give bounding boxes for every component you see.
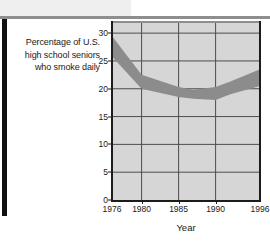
- page-canvas: Percentage of U.S. high school seniors w…: [0, 0, 270, 242]
- x-tick-label: 1996: [251, 204, 270, 214]
- x-tick-mark: [179, 200, 180, 204]
- x-tick-label: 1990: [206, 204, 225, 214]
- y-tick-mark: [108, 116, 112, 117]
- y-tick-label: 25: [99, 56, 108, 66]
- y-tick-mark: [108, 144, 112, 145]
- plot-svg: [112, 22, 260, 200]
- x-tick-label: 1985: [169, 204, 188, 214]
- y-axis-line: [111, 21, 113, 201]
- caption-line-2: high school seniors: [8, 49, 100, 62]
- y-tick-mark: [108, 88, 112, 89]
- axis-right: [259, 21, 261, 201]
- x-tick-mark: [142, 200, 143, 204]
- y-tick-mark: [108, 60, 112, 61]
- chart-caption: Percentage of U.S. high school seniors w…: [8, 36, 100, 74]
- y-tick-label: 15: [99, 112, 108, 122]
- top-left-block: [0, 0, 131, 16]
- left-margin-bar: [2, 19, 7, 216]
- plot-area: [112, 22, 260, 200]
- vertical-gridlines: [142, 22, 216, 200]
- x-tick-label: 1976: [103, 204, 122, 214]
- caption-line-1: Percentage of U.S.: [8, 36, 100, 49]
- x-axis-line: [111, 200, 261, 202]
- y-tick-label: 20: [99, 84, 108, 94]
- header-divider: [0, 16, 270, 19]
- line-chart: 051015202530 19761980198519901996: [112, 22, 260, 200]
- x-tick-label: 1980: [132, 204, 151, 214]
- x-axis-title: Year: [112, 222, 260, 233]
- y-tick-label: 30: [99, 28, 108, 38]
- horizontal-gridlines: [112, 33, 260, 172]
- y-tick-mark: [108, 200, 112, 201]
- x-tick-mark: [216, 200, 217, 204]
- y-tick-mark: [108, 172, 112, 173]
- caption-line-3: who smoke daily: [8, 61, 100, 74]
- y-tick-mark: [108, 33, 112, 34]
- axis-top: [111, 21, 261, 23]
- y-tick-label: 10: [99, 139, 108, 149]
- data-band: [112, 36, 260, 100]
